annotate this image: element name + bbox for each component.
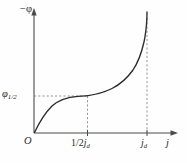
origin-label: O: [24, 136, 32, 147]
polarogram-figure: −φ φ1/2 O 1/2jd jd j: [0, 0, 187, 163]
guide-lines-group: [34, 18, 147, 133]
axes-group: [31, 8, 178, 136]
x-axis-label: j: [166, 138, 169, 149]
y-tick-label-half-wave-potential: φ1/2: [2, 89, 17, 100]
x-axis-arrow-icon: [171, 130, 179, 135]
polarization-curve: [35, 12, 148, 133]
y-axis-label: −φ: [20, 4, 32, 15]
y-axis-arrow-icon: [31, 8, 36, 16]
x-tick-label-half-limiting-current: 1/2jd: [71, 138, 90, 148]
x-tick-label-limiting-current: jd: [141, 138, 147, 148]
